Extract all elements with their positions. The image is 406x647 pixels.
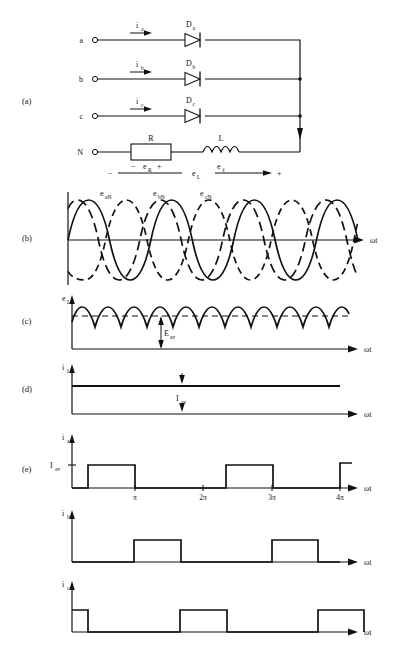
panel-e-a-y-label: i — [62, 433, 65, 442]
panel-e-tick-label-pi: π — [133, 493, 137, 502]
common-cathode-bus — [268, 40, 300, 152]
panel-e-c-y-arrow — [69, 581, 75, 590]
resistor-polarity-minus: − — [131, 162, 136, 171]
terminal-a-dot — [92, 37, 97, 42]
diode-a-triangle — [185, 34, 200, 47]
panel-d-x-arrow — [348, 411, 358, 418]
panel-c-average-sub: av — [170, 334, 175, 340]
panel-e-tick-label-4pi: 4π — [336, 493, 344, 502]
panel-e-level-sub: av — [55, 466, 60, 472]
panel-e-c-axis-label: ωt — [364, 628, 372, 637]
panel-e-ia-pulse-trace — [72, 465, 340, 488]
terminal-b-dot — [92, 76, 97, 81]
panel-e-level-label: I — [50, 461, 53, 470]
series-label-eaN-sub: aN — [105, 194, 112, 200]
current-label-ic-sub: c — [141, 102, 144, 108]
diode-label-Dc: D — [186, 96, 192, 105]
current-c-arrow-head — [144, 106, 152, 112]
panel-c-y-label-sub: L — [67, 299, 71, 305]
panel-label-d: (d) — [22, 384, 32, 394]
panel-e-a-x-arrow — [348, 485, 358, 492]
panel-e-b-axis-label: ωt — [364, 558, 372, 567]
terminal-c-dot — [92, 113, 97, 118]
panel-e-a-y-arrow — [69, 434, 75, 443]
terminal-N-dot — [92, 149, 97, 154]
panel-d-average-label: I — [176, 394, 179, 403]
series-label-ebN: e — [153, 189, 157, 198]
eL-polarity-minus: − — [108, 169, 113, 178]
eL-label: e — [192, 169, 196, 178]
phase-a-branch — [92, 30, 268, 47]
current-label-ic: i — [136, 97, 139, 106]
current-label-ia: i — [136, 21, 139, 30]
diode-label-Da: D — [186, 20, 192, 29]
series-label-eaN: e — [100, 189, 104, 198]
panel-c-y-label: e — [62, 294, 66, 303]
inductor-label: L — [219, 134, 224, 143]
inductor-voltage-label: e — [217, 162, 221, 171]
current-label-ib: i — [136, 60, 139, 69]
terminal-label-b: b — [79, 75, 83, 84]
junction-dot-b — [298, 77, 302, 81]
diode-b-triangle — [185, 73, 200, 86]
panel-d-axis-label: ωt — [364, 410, 372, 419]
panel-c-output-voltage: ωt e L E av — [62, 294, 372, 354]
current-label-ia-sub: a — [141, 26, 144, 32]
panel-label-a: (a) — [22, 96, 32, 106]
panel-e-ib-pulse-trace — [72, 540, 340, 562]
resistor-label: R — [148, 134, 154, 143]
eL-polarity-plus: + — [277, 169, 282, 178]
terminal-label-N: N — [77, 148, 83, 157]
panel-e-ic-pulse-trace-main — [72, 610, 364, 632]
panel-d-y-label-sub: L — [67, 368, 71, 374]
circuit-diagram — [92, 30, 303, 176]
panel-e-a-axis-label: ωt — [364, 484, 372, 493]
inductor-coil — [203, 147, 239, 153]
diode-label-Db-sub: b — [193, 64, 196, 70]
figure-three-phase-rectifier: (a) (b) (c) (d) (e) — [0, 0, 406, 647]
series-label-ecN: e — [200, 189, 204, 198]
bus-current-arrow — [297, 128, 303, 140]
circuit-labels: a b c N i a i b i c D a D b D c R L − e … — [77, 20, 282, 180]
panel-c-axis-label: ωt — [364, 345, 372, 354]
eL-label-sub: L — [197, 174, 201, 180]
panel-e-b-y-label-sub: b — [67, 514, 70, 520]
panel-e-tick-label-2pi: 2π — [199, 493, 207, 502]
diode-label-Dc-sub: c — [193, 101, 196, 107]
panel-e-ia-pulse-last — [340, 463, 352, 488]
inductor-voltage-sub: ℓ — [222, 167, 225, 173]
panel-d-load-current: ωt i L I av — [62, 363, 372, 419]
panel-e-b-y-label: i — [62, 509, 65, 518]
panel-b-x-arrow — [354, 237, 364, 244]
diode-label-Da-sub: a — [193, 25, 196, 31]
panel-d-average-sub: av — [181, 399, 186, 405]
load-branch — [92, 144, 300, 160]
resistor-voltage-sub: R — [148, 167, 152, 173]
panel-c-eav-arrow-down — [158, 340, 164, 349]
diode-label-Db: D — [186, 59, 192, 68]
panel-e-tick-label-3pi: 3π — [268, 493, 276, 502]
panel-c-eav-arrow-up — [158, 316, 164, 325]
panel-label-c: (c) — [22, 316, 32, 326]
current-a-arrow-head — [144, 30, 152, 36]
current-label-ib-sub: b — [141, 65, 144, 71]
phase-c-branch — [92, 106, 300, 123]
resistor-polarity-plus: + — [157, 162, 162, 171]
resistor-voltage-label: e — [143, 162, 147, 171]
panel-e-current-a: ωt i a I av π 2π 3π 4π — [50, 433, 372, 502]
terminal-label-c: c — [79, 112, 83, 121]
resistor-body — [131, 144, 171, 160]
panel-label-b: (b) — [22, 233, 32, 243]
panel-e-b-x-arrow — [348, 559, 358, 566]
panel-b-waveforms: ωt e aN e bN e cN — [68, 189, 378, 285]
eL-arrow-head — [263, 170, 272, 176]
panel-e-b-y-arrow — [69, 510, 75, 519]
panel-e-current-b: ωt i b — [62, 509, 372, 567]
diode-c-triangle — [185, 110, 200, 123]
panel-d-y-label: i — [62, 363, 65, 372]
terminal-label-a: a — [79, 36, 83, 45]
current-b-arrow-head — [144, 69, 152, 75]
panel-c-ripple-waveform — [72, 307, 349, 327]
phase-b-branch — [92, 69, 300, 86]
panel-c-x-arrow — [348, 346, 358, 353]
